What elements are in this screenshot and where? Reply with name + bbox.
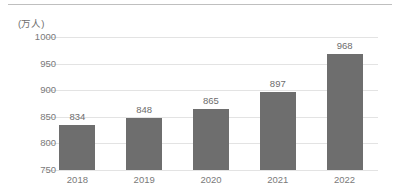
x-axis-tick-label: 2020 xyxy=(200,174,221,185)
x-axis-tick-label: 2022 xyxy=(334,174,355,185)
bar-slot: 834 xyxy=(44,37,111,170)
bar-slot: 968 xyxy=(311,37,378,170)
bar-slot: 897 xyxy=(244,37,311,170)
x-axis-tick-label: 2018 xyxy=(67,174,88,185)
y-axis-unit-label: (万人) xyxy=(18,16,44,30)
bar-value-label: 865 xyxy=(203,95,219,106)
bar-slot: 865 xyxy=(178,37,245,170)
bar-slot: 848 xyxy=(111,37,178,170)
plot-area: 1000950900850800750 834848865897968 xyxy=(44,37,378,170)
bar-value-label: 834 xyxy=(69,111,85,122)
x-axis-tick-label: 2019 xyxy=(134,174,155,185)
bar[interactable] xyxy=(193,109,229,170)
top-divider xyxy=(8,4,392,5)
bar-value-label: 897 xyxy=(270,78,286,89)
bar[interactable] xyxy=(260,92,296,170)
bar-chart-figure: (万人) 1000950900850800750 834848865897968… xyxy=(0,0,396,195)
x-axis-tick-label: 2021 xyxy=(267,174,288,185)
bar-value-label: 848 xyxy=(136,104,152,115)
bar-value-label: 968 xyxy=(337,40,353,51)
bar[interactable] xyxy=(59,125,95,170)
bar[interactable] xyxy=(327,54,363,170)
bar[interactable] xyxy=(126,118,162,170)
gridline xyxy=(44,170,378,171)
